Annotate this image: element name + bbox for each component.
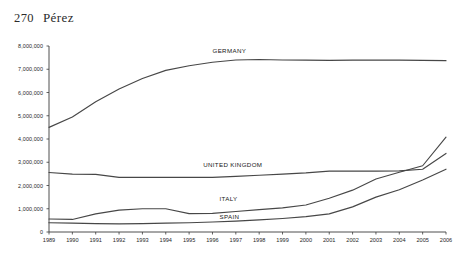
x-tick-label: 1992: [113, 237, 125, 243]
x-tick-label: 1998: [253, 237, 265, 243]
y-tick-label: 4,000,000: [18, 136, 43, 142]
series-line-italy: [49, 137, 446, 219]
series-label-spain: SPAIN: [219, 213, 239, 220]
page-folio: 270: [14, 11, 34, 25]
x-tick-label: 1996: [206, 237, 218, 243]
x-tick-label: 1990: [66, 237, 78, 243]
series-inline-labels: GERMANYUNITED KINGDOMITALYSPAIN: [203, 47, 262, 220]
x-tick-label: 1989: [43, 237, 55, 243]
x-tick-label: 1999: [276, 237, 288, 243]
x-tick-label: 2000: [300, 237, 312, 243]
series-lines: [49, 59, 446, 223]
y-tick-label: 2,000,000: [18, 183, 43, 189]
y-tick-label: 3,000,000: [18, 159, 43, 165]
series-label-italy: ITALY: [219, 195, 237, 202]
y-axis-tick-labels: 01,000,0002,000,0003,000,0004,000,0005,0…: [18, 43, 43, 235]
x-tick-label: 1993: [136, 237, 148, 243]
x-tick-label: 2005: [416, 237, 428, 243]
x-tick-label: 1995: [183, 237, 195, 243]
line-chart-figure: 01,000,0002,000,0003,000,0004,000,0005,0…: [0, 36, 454, 262]
running-head: 270Pérez: [14, 10, 74, 26]
chart-canvas: 01,000,0002,000,0003,000,0004,000,0005,0…: [0, 36, 454, 262]
x-axis-tick-labels: 1989199019911992199319941995199619971998…: [43, 237, 452, 243]
y-tick-label: 0: [40, 229, 43, 235]
x-tick-label: 2003: [370, 237, 382, 243]
series-label-united-kingdom: UNITED KINGDOM: [203, 161, 262, 168]
x-tick-label: 2004: [393, 237, 405, 243]
x-tick-label: 2001: [323, 237, 335, 243]
x-tick-label: 1994: [160, 237, 172, 243]
y-tick-label: 8,000,000: [18, 43, 43, 49]
x-tick-label: 1991: [89, 237, 101, 243]
running-head-title: Pérez: [43, 10, 74, 25]
y-tick-label: 5,000,000: [18, 113, 43, 119]
y-tick-label: 6,000,000: [18, 90, 43, 96]
x-tick-label: 1997: [230, 237, 242, 243]
x-tick-label: 2006: [440, 237, 452, 243]
x-tick-label: 2002: [346, 237, 358, 243]
y-tick-label: 1,000,000: [18, 206, 43, 212]
series-line-germany: [49, 59, 446, 127]
series-label-germany: GERMANY: [212, 47, 246, 54]
y-tick-label: 7,000,000: [18, 66, 43, 72]
series-line-spain: [49, 169, 446, 224]
